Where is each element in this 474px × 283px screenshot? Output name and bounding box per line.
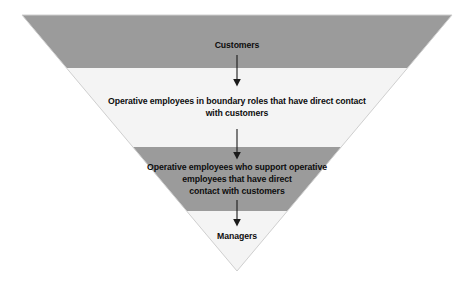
inverted-pyramid-graphic: [0, 0, 474, 283]
inverted-pyramid-diagram: Customers Operative employees in boundar…: [0, 0, 474, 283]
